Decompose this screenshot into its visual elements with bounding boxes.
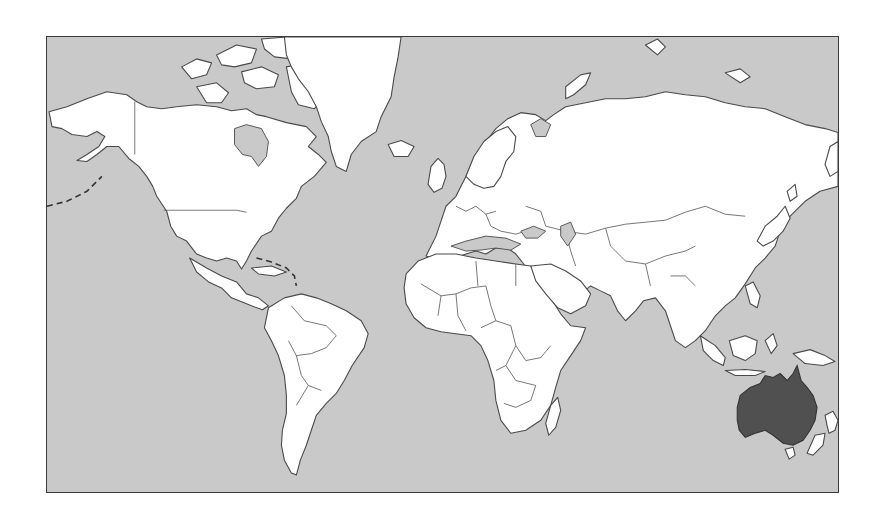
world-map-svg — [47, 37, 838, 492]
world-map: World map - Australia highlighted — [46, 36, 839, 493]
